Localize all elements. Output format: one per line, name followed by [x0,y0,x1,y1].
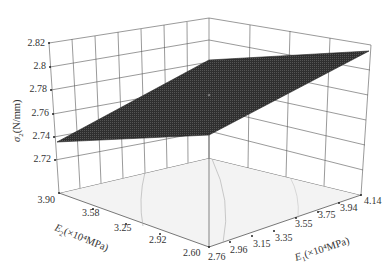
z-tick-label: 2.82 [28,37,46,48]
e1-tick-label: 3.75 [318,209,336,220]
z-axis: 2.82 2.8 2.78 2.76 2.74 2.72 [28,37,52,164]
e1-tick-label: 3.55 [295,218,313,229]
e1-axis-title: E1(×10⁴MPa) [292,235,352,266]
e2-tick-label: 3.25 [114,222,132,233]
e2-axis-title: E2(×10⁴MPa) [51,221,110,256]
surface-marker [208,94,211,97]
z-tick-label: 2.76 [32,107,50,118]
surface-chart: 2.82 2.8 2.78 2.76 2.74 2.72 σ2(N/mm) 3.… [0,0,391,274]
e2-tick-label: 3.90 [38,194,56,205]
z-axis-title: σ2(N/mm) [11,99,25,142]
e1-tick-label: 3.15 [253,238,271,249]
e1-tick-label: 4.14 [364,195,382,206]
e2-tick-label: 2.92 [149,234,167,245]
e1-tick-label: 3.35 [275,232,293,243]
e1-tick-label: 2.96 [230,244,248,255]
z-tick-label: 2.74 [33,130,51,141]
e2-tick-label: 3.58 [82,207,100,218]
e2-tick-label: 2.60 [183,247,201,258]
z-tick-label: 2.72 [34,153,52,164]
e1-tick-label: 2.76 [208,251,226,262]
e1-tick-label: 3.94 [340,202,358,213]
z-tick-label: 2.78 [30,83,48,94]
z-tick-label: 2.8 [34,60,47,71]
